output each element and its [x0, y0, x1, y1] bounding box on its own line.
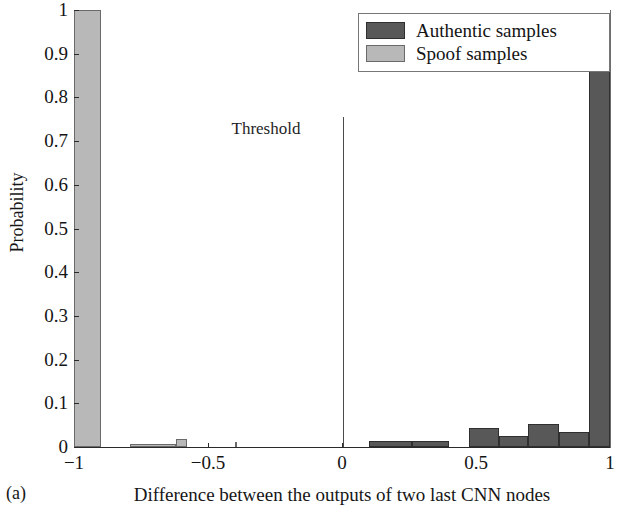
histogram-bar	[235, 442, 237, 447]
histogram-bar	[176, 439, 187, 447]
figure-panel-a: Probability 00.10.20.30.40.50.60.70.80.9…	[0, 0, 625, 515]
subfigure-caption: (a)	[6, 483, 26, 504]
x-tick-label: 0	[307, 452, 377, 474]
plot-right-edge	[610, 10, 611, 448]
legend-swatch-spoof-icon	[366, 45, 405, 62]
y-tick-mark	[74, 141, 79, 142]
x-tick-label: −0.5	[173, 452, 243, 474]
histogram-bar	[499, 436, 528, 447]
y-tick-mark	[74, 403, 79, 404]
histogram-bar	[589, 68, 610, 447]
histogram-bar	[469, 428, 498, 447]
y-tick-label: 0.6	[6, 175, 68, 194]
y-tick-mark	[74, 316, 79, 317]
y-tick-label: 1	[6, 0, 68, 19]
x-tick-label: −1	[39, 452, 109, 474]
legend-swatch-authentic-icon	[366, 22, 405, 39]
y-tick-mark	[74, 97, 79, 98]
threshold-line	[343, 117, 344, 447]
y-tick-label: 0.2	[6, 350, 68, 369]
y-tick-mark	[74, 10, 79, 11]
legend-label-authentic: Authentic samples	[416, 21, 557, 40]
histogram-bar	[130, 444, 176, 447]
legend-label-spoof: Spoof samples	[416, 44, 527, 63]
y-axis-ticks: 00.10.20.30.40.50.60.70.80.91	[0, 0, 68, 515]
chart-legend: Authentic samples Spoof samples	[358, 13, 610, 72]
y-tick-label: 0.7	[6, 131, 68, 150]
legend-item-authentic: Authentic samples	[366, 19, 602, 42]
histogram-bar	[528, 424, 559, 447]
y-tick-mark	[74, 54, 79, 55]
x-tick-label: 1	[575, 452, 625, 474]
y-tick-label: 0.8	[6, 87, 68, 106]
y-tick-mark	[74, 185, 79, 186]
legend-item-spoof: Spoof samples	[366, 42, 602, 65]
y-tick-mark	[74, 447, 79, 448]
y-tick-label: 0.3	[6, 306, 68, 325]
y-tick-label: 0.4	[6, 262, 68, 281]
y-tick-label: 0.5	[6, 219, 68, 238]
histogram-bar	[412, 441, 450, 447]
histogram-bar	[369, 441, 412, 447]
plot-area	[74, 10, 610, 447]
x-tick-label: 0.5	[441, 452, 511, 474]
x-axis-label: Difference between the outputs of two la…	[74, 484, 610, 506]
y-tick-mark	[74, 272, 79, 273]
threshold-label: Threshold	[206, 119, 326, 139]
y-tick-mark	[74, 360, 79, 361]
y-tick-label: 0.9	[6, 44, 68, 63]
histogram-bar	[559, 432, 588, 447]
y-tick-mark	[74, 229, 79, 230]
y-tick-label: 0.1	[6, 393, 68, 412]
